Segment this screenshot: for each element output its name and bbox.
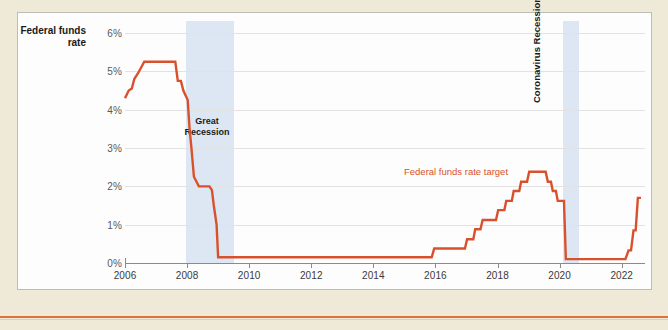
x-axis-tick (125, 263, 126, 268)
gridline (125, 225, 645, 226)
y-axis-tick-label: 1% (107, 219, 122, 230)
x-axis-tick (373, 263, 374, 268)
gridline (125, 33, 645, 34)
x-axis-tick (560, 263, 561, 268)
x-axis-tick-label: 2006 (114, 270, 137, 281)
plot-area (108, 21, 628, 263)
x-axis-tick (498, 263, 499, 268)
annotation-great-recession: Great Recession (176, 116, 238, 138)
x-axis-tick-label: 2020 (548, 270, 571, 281)
x-axis-line (125, 263, 645, 264)
figure-page: Federal funds rate 0%1%2%3%4%5%6% 200620… (0, 0, 668, 330)
y-axis-tick-label: 4% (107, 104, 122, 115)
y-axis-title: Federal funds rate (18, 25, 86, 49)
x-axis-tick (622, 263, 623, 268)
x-axis-tick (311, 263, 312, 268)
y-axis-tick-label: 2% (107, 181, 122, 192)
x-axis-tick (435, 263, 436, 268)
recession-band (186, 21, 234, 263)
series-label-federal-funds-rate-target: Federal funds rate target (404, 166, 508, 177)
annotation-coronavirus-recession: Coronavirus Recession (531, 0, 542, 103)
y-axis-title-line2: rate (18, 37, 86, 49)
y-axis: 0%1%2%3%4%5%6% (86, 21, 122, 263)
x-axis-tick-label: 2008 (176, 270, 199, 281)
x-axis-tick (249, 263, 250, 268)
x-axis-tick-label: 2016 (424, 270, 447, 281)
y-axis-title-line1: Federal funds (18, 25, 86, 37)
x-axis-tick-label: 2022 (610, 270, 633, 281)
x-axis-tick-label: 2014 (362, 270, 385, 281)
bottom-rule (0, 316, 668, 318)
gridline (125, 71, 645, 72)
y-axis-tick-label: 6% (107, 28, 122, 39)
annotation-great-recession-line1: Great (176, 116, 238, 127)
x-axis-tick-label: 2018 (486, 270, 509, 281)
y-axis-tick-label: 0% (107, 258, 122, 269)
annotation-great-recession-line2: Recession (176, 127, 238, 138)
x-axis-tick-label: 2012 (300, 270, 323, 281)
gridline (125, 110, 645, 111)
x-axis-tick-label: 2010 (238, 270, 261, 281)
y-axis-tick-label: 5% (107, 66, 122, 77)
gridline (125, 186, 645, 187)
gridline (125, 148, 645, 149)
x-axis-tick (187, 263, 188, 268)
y-axis-tick-label: 3% (107, 143, 122, 154)
bottom-rule-secondary (0, 319, 668, 320)
recession-band (563, 21, 579, 263)
